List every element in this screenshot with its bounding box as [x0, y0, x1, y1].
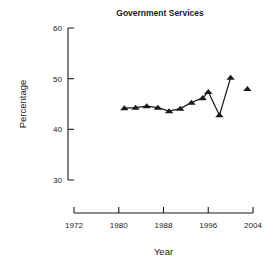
y-tick-label-30: 30 — [53, 176, 62, 185]
x-tick-label-1988: 1988 — [155, 221, 173, 230]
x-tick-label-2004: 2004 — [244, 221, 262, 230]
y-tick-label-40: 40 — [53, 125, 62, 134]
y-axis-spine — [68, 28, 74, 180]
chart-title: Government Services — [116, 8, 204, 18]
plot-area — [120, 75, 251, 118]
x-tick-label-1980: 1980 — [110, 221, 128, 230]
y-axis-label: Percentage — [17, 80, 28, 129]
x-tick-label-1972: 1972 — [65, 221, 83, 230]
x-axis-label: Year — [154, 246, 173, 257]
government-services-line-chart: Government Services 60 50 40 30 Percenta… — [0, 0, 277, 272]
data-point-marker — [226, 75, 234, 80]
data-point-marker — [243, 86, 251, 91]
x-tick-label-1996: 1996 — [199, 221, 217, 230]
data-point-marker — [204, 89, 212, 94]
data-point-marker — [187, 100, 195, 105]
y-tick-label-50: 50 — [53, 75, 62, 84]
y-tick-label-60: 60 — [53, 24, 62, 33]
chart-figure: Government Services 60 50 40 30 Percenta… — [0, 0, 277, 272]
data-point-marker — [215, 112, 223, 117]
data-point-marker — [198, 95, 206, 100]
data-point-marker — [143, 103, 151, 108]
